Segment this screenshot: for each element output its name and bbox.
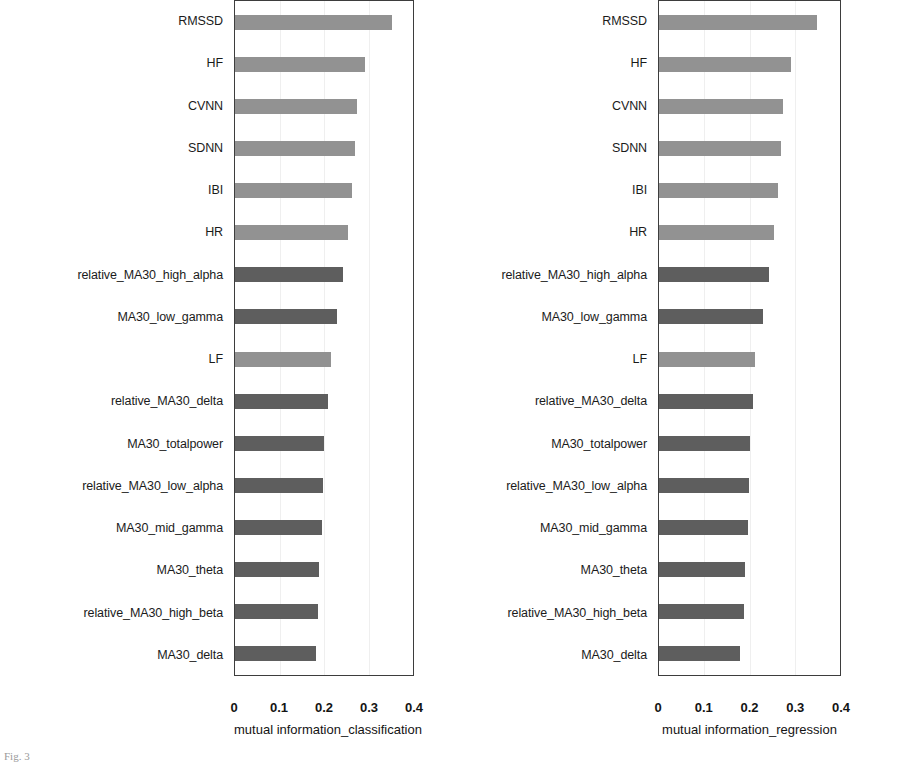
x-axis-tick: 0 [654, 700, 661, 715]
bar-row [659, 43, 840, 85]
figure-caption: Fig. 3 [4, 750, 30, 762]
bar [235, 225, 348, 240]
category-label: MA30_delta [0, 634, 230, 676]
bar-row [659, 591, 840, 633]
category-label: MA30_theta [451, 549, 654, 591]
bar [235, 478, 323, 493]
category-label: HF [0, 42, 230, 84]
bar-row [659, 85, 840, 127]
bar [235, 352, 331, 367]
bar [659, 15, 817, 30]
bar-row [659, 170, 840, 212]
bar-row [659, 422, 840, 464]
x-axis-tick: 0 [230, 700, 237, 715]
bar [235, 183, 352, 198]
bar-row [235, 591, 413, 633]
category-label: relative_MA30_low_alpha [0, 465, 230, 507]
bar-row [659, 633, 840, 675]
x-axis-ticks-regression: 00.10.20.30.4 [658, 700, 841, 718]
bar [659, 99, 783, 114]
category-label: CVNN [451, 85, 654, 127]
bar [659, 267, 769, 282]
bars-classification [235, 1, 413, 675]
bar-row [659, 549, 840, 591]
bar [659, 436, 750, 451]
bar [235, 15, 392, 30]
category-label: LF [451, 338, 654, 380]
bar [659, 352, 755, 367]
bar [659, 604, 744, 619]
category-label: relative_MA30_delta [0, 380, 230, 422]
category-label: MA30_low_gamma [451, 296, 654, 338]
bar-row [235, 127, 413, 169]
bar-row [659, 380, 840, 422]
panel-regression: RMSSDHFCVNNSDNNIBIHRrelative_MA30_high_a… [451, 0, 902, 771]
bar [659, 520, 748, 535]
category-label: RMSSD [451, 0, 654, 42]
x-axis-tick: 0.2 [315, 700, 333, 715]
figure-two-panel-bar-charts: RMSSDHFCVNNSDNNIBIHRrelative_MA30_high_a… [0, 0, 903, 771]
category-label: IBI [451, 169, 654, 211]
category-label: MA30_mid_gamma [0, 507, 230, 549]
bars-regression [659, 1, 840, 675]
category-label: relative_MA30_high_alpha [451, 254, 654, 296]
bar-row [659, 464, 840, 506]
bar-row [235, 422, 413, 464]
bar [659, 394, 753, 409]
bar [659, 57, 791, 72]
category-label: RMSSD [0, 0, 230, 42]
category-label: relative_MA30_high_alpha [0, 254, 230, 296]
bar [235, 394, 328, 409]
bar [659, 141, 781, 156]
bar-row [235, 43, 413, 85]
bar [659, 646, 740, 661]
x-axis-tick: 0.4 [832, 700, 850, 715]
category-label: MA30_mid_gamma [451, 507, 654, 549]
x-axis-label-classification: mutual information_classification [234, 722, 414, 737]
bar-row [235, 212, 413, 254]
category-label: MA30_theta [0, 549, 230, 591]
bar [235, 267, 343, 282]
bar [659, 225, 774, 240]
bar [235, 520, 322, 535]
bar-row [235, 85, 413, 127]
bar [235, 141, 355, 156]
bar-row [235, 170, 413, 212]
category-labels-classification: RMSSDHFCVNNSDNNIBIHRrelative_MA30_high_a… [0, 0, 230, 676]
category-label: relative_MA30_low_alpha [451, 465, 654, 507]
category-label: HF [451, 42, 654, 84]
category-label: relative_MA30_high_beta [0, 592, 230, 634]
bar-row [659, 296, 840, 338]
category-label: SDNN [0, 127, 230, 169]
bar [659, 309, 763, 324]
bar-row [235, 1, 413, 43]
category-label: LF [0, 338, 230, 380]
bar [235, 99, 357, 114]
category-label: CVNN [0, 85, 230, 127]
bar-row [235, 296, 413, 338]
bar [235, 57, 365, 72]
bar [235, 646, 316, 661]
bar-row [659, 127, 840, 169]
bar [659, 478, 749, 493]
category-label: IBI [0, 169, 230, 211]
category-label: MA30_totalpower [0, 423, 230, 465]
bar-row [235, 464, 413, 506]
bar [659, 183, 778, 198]
x-axis-tick: 0.1 [695, 700, 713, 715]
bar-row [659, 338, 840, 380]
panel-classification: RMSSDHFCVNNSDNNIBIHRrelative_MA30_high_a… [0, 0, 451, 771]
bar-row [235, 254, 413, 296]
x-axis-tick: 0.1 [270, 700, 288, 715]
x-axis-ticks-classification: 00.10.20.30.4 [234, 700, 414, 718]
bar-row [235, 380, 413, 422]
category-label: HR [0, 211, 230, 253]
category-labels-regression: RMSSDHFCVNNSDNNIBIHRrelative_MA30_high_a… [451, 0, 654, 676]
bar-row [659, 254, 840, 296]
x-axis-label-regression: mutual information_regression [658, 722, 841, 737]
bar [235, 562, 319, 577]
bar [235, 436, 324, 451]
bar-row [659, 1, 840, 43]
category-label: HR [451, 211, 654, 253]
bar-row [235, 507, 413, 549]
